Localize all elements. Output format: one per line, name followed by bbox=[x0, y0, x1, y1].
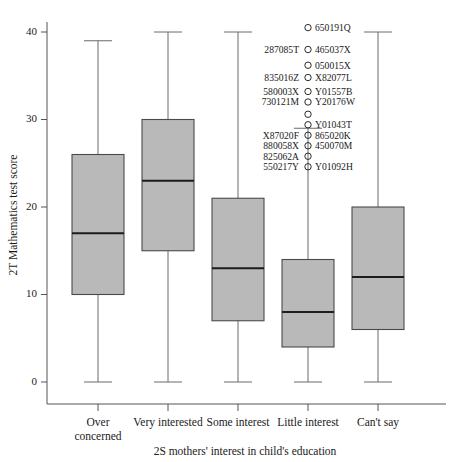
outlier-label-right: 450070M bbox=[315, 140, 353, 151]
outlier-label-right: Y01043T bbox=[315, 119, 352, 130]
outlier-label-left: 835016Z bbox=[264, 72, 299, 83]
x-tick-label: Very interested bbox=[133, 416, 203, 429]
box-rect bbox=[142, 120, 194, 251]
outlier-label-right: 865020K bbox=[315, 130, 351, 141]
outlier-label-left: X87020F bbox=[263, 130, 299, 141]
outlier-label-left: 287085T bbox=[264, 44, 299, 55]
x-tick-label: concerned bbox=[74, 430, 121, 442]
box-rect bbox=[212, 198, 264, 321]
y-tick-label: 30 bbox=[26, 112, 38, 124]
y-tick-label: 10 bbox=[26, 287, 38, 299]
outlier-label-left: 550217Y bbox=[263, 161, 299, 172]
outlier-label-right: 465037X bbox=[315, 44, 351, 55]
boxplot-figure: 010203040 OverconcernedVery interestedSo… bbox=[0, 0, 451, 462]
x-tick-label: Little interest bbox=[277, 416, 339, 428]
outlier-label-left: 880058X bbox=[263, 140, 299, 151]
outlier-label-right: 650191Q bbox=[315, 22, 351, 33]
outlier-label-right: Y20176W bbox=[315, 96, 356, 107]
y-axis-title: 2T Mathematics test score bbox=[7, 155, 19, 276]
outlier-label-left: 825062A bbox=[263, 151, 299, 162]
outlier-label-left: 580003X bbox=[263, 86, 299, 97]
x-tick-label: Over bbox=[87, 416, 110, 428]
boxplot-svg: 010203040 OverconcernedVery interestedSo… bbox=[0, 0, 451, 462]
box-rect bbox=[72, 155, 124, 295]
x-axis-title: 2S mothers' interest in child's educatio… bbox=[154, 445, 337, 457]
x-tick-label: Can't say bbox=[357, 416, 399, 429]
y-tick-label: 40 bbox=[26, 25, 38, 37]
y-tick-label: 0 bbox=[32, 375, 38, 387]
y-tick-label: 20 bbox=[26, 200, 38, 212]
outlier-label-left: 730121M bbox=[262, 96, 300, 107]
x-tick-label: Some interest bbox=[207, 416, 271, 428]
outlier-label-right: 050015X bbox=[315, 60, 351, 71]
outlier-label-right: Y01557B bbox=[315, 86, 352, 97]
outlier-label-right: X82077L bbox=[315, 72, 352, 83]
box-rect bbox=[282, 260, 334, 348]
outlier-label-right: Y01092H bbox=[315, 161, 353, 172]
box-rect bbox=[352, 207, 404, 330]
